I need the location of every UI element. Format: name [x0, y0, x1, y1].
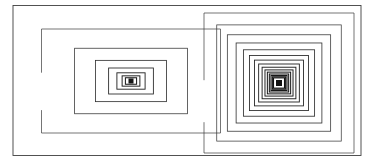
background-rect [0, 0, 374, 163]
left-nest-core [129, 79, 134, 84]
nested-rectangles-svg [0, 0, 374, 163]
figure-canvas: Nested rectangle spiral [0, 0, 374, 163]
right-nest-core [276, 80, 282, 86]
